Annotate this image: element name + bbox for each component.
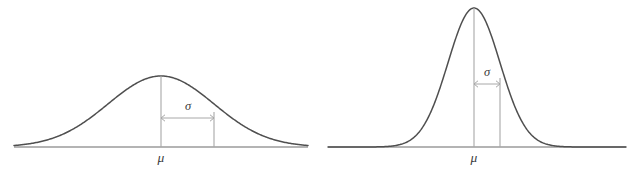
figure-canvas: σ μ σ μ [0, 0, 636, 171]
right-normal-curve [328, 8, 626, 147]
normal-distribution-figure: σ μ σ μ [0, 0, 636, 171]
left-mu-label: μ [157, 150, 165, 165]
right-mu-label: μ [470, 150, 478, 165]
right-sigma-label: σ [484, 65, 491, 79]
left-sigma-label: σ [185, 99, 192, 113]
left-panel: σ μ [14, 76, 308, 165]
right-panel: σ μ [328, 8, 626, 165]
